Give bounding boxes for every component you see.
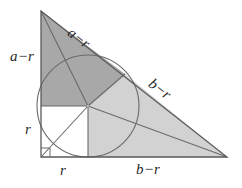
triangle-incircle-figure	[0, 0, 242, 188]
label-radius-horizontal: r	[60, 163, 66, 178]
diagram-canvas: a−r a−r b−r b−r r r	[0, 0, 242, 188]
label-leg-horizontal-right: b−r	[136, 162, 160, 177]
label-leg-vertical: a−r	[10, 49, 34, 64]
incenter-point	[87, 105, 89, 107]
label-radius-vertical: r	[25, 122, 31, 137]
